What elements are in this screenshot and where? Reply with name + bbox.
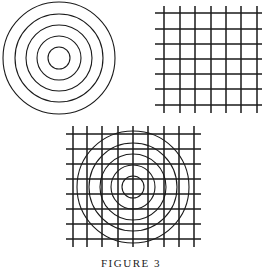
ring [3, 2, 115, 114]
figure-caption: FIGURE 3 [0, 257, 262, 269]
ring [48, 47, 70, 69]
grid-panel [155, 6, 262, 113]
ring [26, 25, 92, 91]
ring [15, 14, 103, 102]
concentric-circles-panel [3, 2, 115, 114]
ring [37, 36, 81, 80]
combined-grid-circles-panel [66, 126, 201, 247]
